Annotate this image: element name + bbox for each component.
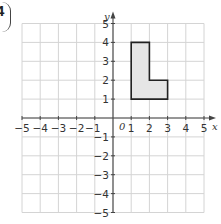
- y-axis-label: y: [103, 11, 110, 22]
- x-tick-label: 2: [146, 122, 153, 134]
- x-tick-label: 3: [164, 122, 171, 134]
- y-tick-label: 2: [102, 74, 109, 86]
- origin-label: 0: [119, 121, 126, 132]
- x-tick-label: 4: [182, 122, 189, 134]
- y-tick-label: −3: [94, 169, 109, 181]
- l-shape-polygon: [131, 42, 167, 99]
- y-tick-label: 4: [102, 36, 109, 48]
- y-tick-label: −5: [94, 207, 109, 219]
- y-tick-label: 1: [102, 93, 109, 105]
- y-axis-arrow-icon: [111, 12, 116, 19]
- x-tick-label: −2: [69, 122, 84, 134]
- x-tick-label: −4: [32, 122, 48, 134]
- x-axis-arrow-icon: [209, 116, 216, 121]
- x-tick-label: −5: [14, 122, 29, 134]
- x-axis-label: x: [212, 121, 218, 132]
- coordinate-grid: −5−4−3−2−11234554321−1−2−3−4−50xy: [0, 0, 221, 224]
- y-tick-label: −4: [94, 188, 110, 200]
- x-tick-label: 1: [128, 122, 135, 134]
- y-tick-label: 3: [102, 55, 109, 67]
- x-tick-label: −3: [51, 122, 66, 134]
- y-tick-label: −2: [94, 150, 109, 162]
- y-tick-label: −1: [94, 131, 109, 143]
- x-tick-label: 5: [201, 122, 208, 134]
